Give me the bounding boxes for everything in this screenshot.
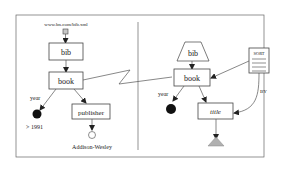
result-triangle-icon [208,137,224,146]
edge-label-year-left: year [30,95,40,101]
node-bib-left: bib [49,43,83,60]
sort-label: SORT [253,51,264,56]
svg-text:bib: bib [61,48,71,57]
source-url-label: www.bn.com/bib.xml [44,22,88,27]
year-condition: > 1991 [26,124,43,130]
sort-operator: SORT [249,48,269,73]
svg-text:title: title [210,108,221,116]
publisher-value: Addison-Wesley [72,144,112,150]
svg-text:book: book [184,74,200,83]
node-title: title [198,103,233,119]
query-diagram: www.bn.com/bib.xml bib book year > 1991 … [0,0,288,171]
node-bib-right-trapezoid: bib [177,42,209,61]
node-book-right: book [174,69,210,86]
svg-text:bib: bib [188,49,198,58]
year-filled-node-right [166,104,176,114]
edge-label-year-right: year [158,91,168,97]
node-publisher: publisher [72,104,110,119]
year-filled-node [33,110,42,119]
cross-panel-link [83,70,172,84]
svg-text:book: book [58,77,74,86]
right-query-panel: bib book SORT year title BY [158,42,269,146]
left-query-panel: www.bn.com/bib.xml bib book year > 1991 … [26,22,112,150]
publisher-value-node [89,132,96,139]
edge-label-by: BY [260,89,267,94]
node-book-left: book [49,72,83,89]
svg-text:publisher: publisher [78,109,105,117]
source-document-icon [63,29,68,34]
